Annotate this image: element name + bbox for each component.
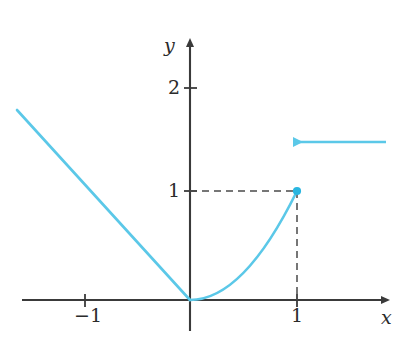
graph-figure: y x 2 1 1 −1 — [0, 0, 404, 341]
y-axis-label: y — [164, 34, 175, 56]
y-tick-label-2: 2 — [160, 76, 180, 98]
y-tick-label-1: 1 — [160, 179, 180, 201]
endpoint-dot — [293, 187, 301, 195]
x-axis-label: x — [381, 306, 392, 328]
plot-canvas — [0, 0, 404, 341]
curve-linear-branch — [17, 110, 190, 300]
x-tick-label-1: 1 — [287, 304, 307, 326]
curve-parabola-branch — [190, 191, 297, 300]
x-tick-label-minus-1: −1 — [70, 304, 106, 326]
